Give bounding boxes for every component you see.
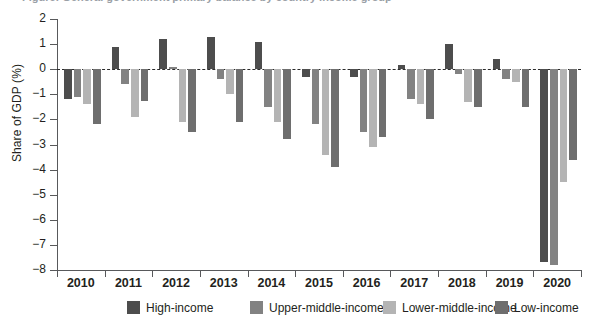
bar xyxy=(141,69,149,100)
bar xyxy=(179,69,187,122)
bar xyxy=(255,42,263,70)
bar xyxy=(312,69,320,124)
legend-label: Upper-middle-income xyxy=(269,301,384,315)
bar xyxy=(83,69,91,104)
bar xyxy=(93,69,101,124)
y-tick-label: −8 xyxy=(26,262,46,276)
x-tick-label-2015: 2015 xyxy=(293,276,345,290)
bar xyxy=(560,69,568,182)
bar xyxy=(159,39,167,69)
bar xyxy=(121,69,129,84)
y-tick xyxy=(50,44,57,45)
y-tick xyxy=(50,170,57,171)
bar xyxy=(522,69,530,107)
figure-title-text: Figure: General government primary balan… xyxy=(22,0,392,3)
bar xyxy=(226,69,234,94)
chart-legend: High-incomeUpper-middle-incomeLower-midd… xyxy=(0,298,593,316)
bar xyxy=(283,69,291,139)
x-tick-label-2018: 2018 xyxy=(436,276,488,290)
plot-area xyxy=(57,19,581,270)
legend-item-low-income[interactable]: Low-income xyxy=(495,298,579,314)
bar xyxy=(569,69,577,159)
bar xyxy=(64,69,72,99)
bar xyxy=(407,69,415,99)
x-tick-label-2017: 2017 xyxy=(388,276,440,290)
x-tick-label-2011: 2011 xyxy=(102,276,154,290)
bar xyxy=(445,44,453,69)
legend-label: Low-income xyxy=(514,301,579,315)
bar xyxy=(540,69,548,262)
legend-item-upper-middle-income[interactable]: Upper-middle-income xyxy=(250,298,384,314)
bar xyxy=(322,69,330,154)
legend-item-high-income[interactable]: High-income xyxy=(127,298,213,314)
bar xyxy=(217,69,225,79)
bar xyxy=(455,69,463,74)
bar xyxy=(398,65,406,69)
bar xyxy=(112,47,120,70)
bar xyxy=(207,37,215,70)
bar xyxy=(331,69,339,167)
bar xyxy=(502,69,510,79)
bar xyxy=(169,67,177,70)
bar xyxy=(369,69,377,147)
y-tick-label: −4 xyxy=(26,162,46,176)
bar xyxy=(350,69,358,77)
y-tick-label: 2 xyxy=(26,11,46,25)
y-tick xyxy=(50,245,57,246)
y-tick xyxy=(50,119,57,120)
bar xyxy=(274,69,282,122)
bar xyxy=(493,59,501,69)
y-tick xyxy=(50,145,57,146)
bar xyxy=(188,69,196,132)
bar xyxy=(74,69,82,97)
y-tick xyxy=(50,94,57,95)
legend-swatch-icon xyxy=(250,301,263,314)
y-tick-label: −6 xyxy=(26,212,46,226)
bar xyxy=(426,69,434,119)
bar xyxy=(474,69,482,107)
y-tick xyxy=(50,220,57,221)
x-tick-label-2019: 2019 xyxy=(484,276,536,290)
x-tick-label-2014: 2014 xyxy=(245,276,297,290)
y-axis-title: Share of GDP (%) xyxy=(10,28,24,198)
chart-figure: Figure: General government primary balan… xyxy=(0,0,593,324)
y-tick-label: −7 xyxy=(26,237,46,251)
bar xyxy=(512,69,520,82)
y-tick xyxy=(50,195,57,196)
legend-label: High-income xyxy=(146,301,213,315)
bar xyxy=(131,69,139,117)
bar xyxy=(302,69,310,77)
y-tick xyxy=(50,19,57,20)
figure-title-clipped: Figure: General government primary balan… xyxy=(0,0,593,9)
y-tick-label: −1 xyxy=(26,86,46,100)
bar xyxy=(264,69,272,107)
bar xyxy=(236,69,244,122)
y-tick-label: 0 xyxy=(26,61,46,75)
bar xyxy=(550,69,558,265)
legend-swatch-icon xyxy=(383,301,396,314)
x-tick-label-2010: 2010 xyxy=(55,276,107,290)
y-tick-label: −2 xyxy=(26,111,46,125)
x-tick-label-2013: 2013 xyxy=(198,276,250,290)
x-tick-label-2016: 2016 xyxy=(341,276,393,290)
legend-swatch-icon xyxy=(127,301,140,314)
legend-swatch-icon xyxy=(495,301,508,314)
x-tick-label-2020: 2020 xyxy=(531,276,583,290)
bar xyxy=(464,69,472,102)
bar xyxy=(360,69,368,132)
x-tick-label-2012: 2012 xyxy=(150,276,202,290)
y-tick xyxy=(50,69,57,70)
y-tick-label: −3 xyxy=(26,137,46,151)
y-tick xyxy=(50,270,57,271)
bar xyxy=(417,69,425,104)
x-axis-line xyxy=(57,270,582,271)
bar xyxy=(379,69,387,137)
y-tick-label: 1 xyxy=(26,36,46,50)
y-tick-label: −5 xyxy=(26,187,46,201)
